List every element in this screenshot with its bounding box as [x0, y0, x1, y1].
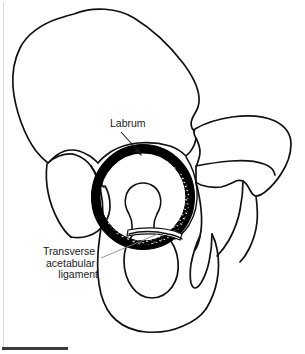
labrum-label: Labrum: [110, 117, 146, 129]
transverse-ligament-label-line1: Transverse: [43, 245, 95, 257]
transverse-ligament-label-line2: acetabular: [46, 257, 96, 269]
hip-anatomy-illustration: Labrum Transverse acetabular ligament: [0, 0, 305, 354]
scale-bar: [2, 347, 68, 350]
transverse-ligament-label-line3: ligament: [58, 268, 98, 280]
anatomical-figure: Labrum Transverse acetabular ligament: [0, 0, 305, 354]
